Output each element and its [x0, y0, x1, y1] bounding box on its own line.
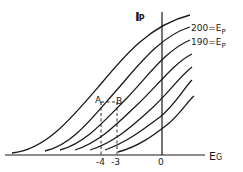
y-axis-label: IP [135, 10, 144, 23]
curve-6 [105, 80, 192, 150]
x-tick-minus4: -4 [96, 158, 105, 167]
curve-label-190v: 190=EP [191, 38, 226, 50]
x-tick-zero: 0 [158, 158, 164, 167]
x-tick-minus3: -3 [111, 158, 120, 167]
point-b-label: B [116, 97, 122, 106]
x-axis-label: EG [209, 151, 222, 162]
tube-characteristic-diagram: IP 200=EP 190=EP EG A B -4 -3 0 [0, 0, 243, 172]
curve-label-200v: 200=EP [191, 24, 226, 36]
point-a-label: A [95, 96, 101, 105]
characteristic-curves [12, 15, 194, 153]
curve-2-200v [45, 27, 190, 151]
